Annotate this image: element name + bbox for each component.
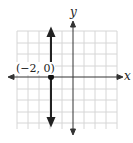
grid	[17, 31, 117, 129]
point-label: (−2, 0)	[16, 62, 55, 75]
y-axis-label: y	[70, 5, 77, 19]
x-axis-label: x	[124, 69, 131, 83]
